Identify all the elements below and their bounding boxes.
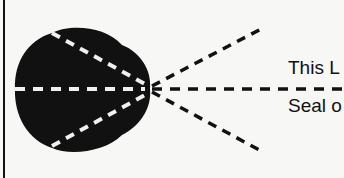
dashed-line-lower [152,92,263,152]
dashed-line-upper [152,28,263,86]
label-bottom: Seal o [288,96,342,115]
seal-diagram [0,0,344,178]
diagram-canvas: This L Seal o [0,0,344,178]
label-top: This L [288,58,340,77]
